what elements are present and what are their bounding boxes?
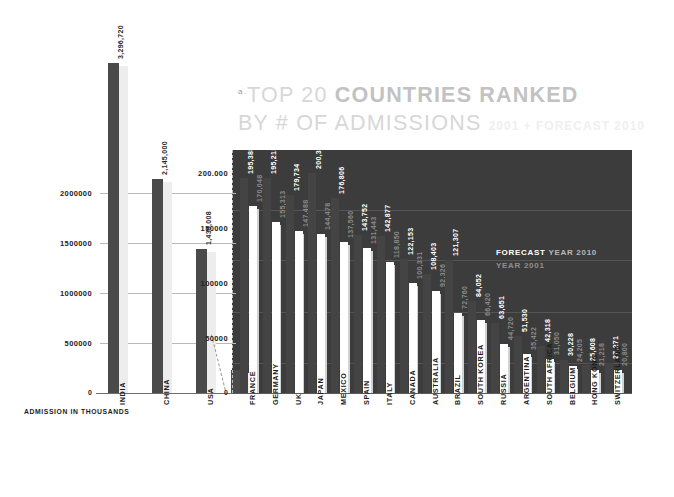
bar-left-CHINA[interactable]: [152, 179, 163, 394]
value-2010-UK: 179,734: [293, 164, 300, 191]
bar-left-INDIA[interactable]: [108, 63, 119, 393]
bar-left-USA[interactable]: [196, 249, 207, 393]
value-2010-BRAZIL: 121,307: [452, 228, 459, 255]
country-label-SWITZERLAND: SWITZERLAND: [613, 345, 622, 405]
value-2010-FRANCE: 195,388: [247, 147, 254, 174]
country-label-ITALY: ITALY: [385, 382, 394, 405]
value-2010-SOUTH AFRICA: 42,318: [544, 319, 551, 342]
country-label-BELGIUM: BELGIUM: [568, 367, 577, 405]
bar-2010-AUSTRALIA[interactable]: [423, 274, 431, 393]
country-label-GERMANY: GERMANY: [271, 363, 280, 405]
country-label-SOUTH-KOREA: SOUTH KOREA: [476, 344, 485, 405]
value-2001-BELGIUM: 24,205: [576, 339, 583, 362]
bar-2001-FRANCE[interactable]: [249, 206, 257, 393]
legend-item-forecast: FORECAST YEAR 2010: [496, 246, 626, 259]
legend-2001-label: YEAR 2001: [496, 261, 545, 270]
zero-label-right: 0: [224, 389, 228, 396]
ytick-left-1000000: 1000000: [20, 289, 92, 298]
title-subtitle: 2001 + FORECAST 2010: [489, 119, 645, 133]
country-label-BRAZIL: BRAZIL: [453, 374, 462, 405]
country-label-SPAIN: SPAIN: [362, 380, 371, 405]
title-line-2: BY # OF ADMISSIONS 2001 + FORECAST 2010: [238, 109, 658, 140]
country-label-AUSTRALIA: AUSTRALIA: [431, 357, 440, 405]
value-2001-SOUTH KOREA: 66,420: [484, 293, 491, 316]
value-2001-ITALY: 118,850: [393, 231, 400, 258]
title-plain-2: BY # OF ADMISSIONS: [238, 111, 481, 135]
bar-2010-GERMANY[interactable]: [263, 178, 271, 393]
ytick-right-150000: 150000: [176, 224, 228, 233]
country-label-CHINA: CHINA: [162, 379, 171, 405]
legend-item-2001: YEAR 2001: [496, 259, 626, 272]
value-2001-MEXICO: 137,560: [347, 210, 354, 237]
legend: FORECAST YEAR 2010 YEAR 2001: [496, 246, 626, 272]
legend-forecast-word: FORECAST: [496, 248, 546, 257]
bar-2010-CANADA[interactable]: [400, 259, 408, 393]
country-label-JAPAN: JAPAN: [316, 378, 325, 405]
legend-forecast-year: YEAR 2010: [546, 248, 597, 257]
bar-2010-SOUTH AFRICA[interactable]: [537, 346, 545, 393]
bar-value-INDIA: 3,296,720: [117, 25, 124, 59]
bar-value-CHINA: 2,145,000: [161, 141, 168, 175]
bar-2001-ITALY[interactable]: [386, 262, 394, 393]
value-2010-CANADA: 122,153: [407, 227, 414, 254]
value-2010-BELGIUM: 30,228: [567, 333, 574, 356]
bar-2010-RUSSIA[interactable]: [491, 323, 499, 393]
bar-2010-SPAIN[interactable]: [354, 235, 362, 393]
ytick-left-2000000: 2000000: [20, 189, 92, 198]
value-2001-SWITZERLAND: 20,800: [621, 343, 628, 366]
title-plain-1: TOP 20: [247, 83, 335, 107]
value-2010-SPAIN: 143,752: [361, 203, 368, 230]
bar-2001-MEXICO[interactable]: [340, 242, 348, 393]
chart-title-block: a.TOP 20 COUNTRIES RANKED BY # OF ADMISS…: [238, 78, 658, 140]
value-2010-GERMANY: 195,213: [270, 147, 277, 174]
title-line-1: a.TOP 20 COUNTRIES RANKED: [238, 78, 658, 109]
value-2010-RUSSIA: 63,651: [498, 296, 505, 319]
bar-2010-MEXICO[interactable]: [331, 198, 339, 393]
value-2010-ARGENTINA: 51,530: [521, 309, 528, 332]
title-marker: a.: [238, 87, 247, 96]
bar-2010-BELGIUM[interactable]: [560, 360, 568, 393]
country-label-MEXICO: MEXICO: [339, 372, 348, 405]
ytick-right-100000: 100000: [176, 279, 228, 288]
ytick-right-50000: 50000: [176, 334, 228, 343]
value-2010-SOUTH KOREA: 84,052: [475, 273, 482, 296]
value-2010-ITALY: 142,877: [384, 204, 391, 231]
chart-canvas: a.TOP 20 COUNTRIES RANKED BY # OF ADMISS…: [0, 0, 674, 497]
bar-2010-FRANCE[interactable]: [240, 178, 248, 393]
ytick-left-1500000: 1500000: [20, 239, 92, 248]
country-label-CANADA: CANADA: [408, 370, 417, 405]
country-label-UK: UK: [294, 393, 303, 405]
value-2010-AUSTRALIA: 108,403: [430, 242, 437, 269]
bar-2010-UK[interactable]: [286, 195, 294, 393]
bar-2010-ARGENTINA[interactable]: [514, 336, 522, 393]
value-2010-MEXICO: 176,806: [338, 167, 345, 194]
country-label-USA: USA: [206, 388, 215, 405]
ytick-right-200000: 200.000: [176, 169, 228, 178]
bar-2001-SPAIN[interactable]: [363, 248, 371, 393]
bar-2010-ITALY[interactable]: [377, 236, 385, 393]
bar-2010-JAPAN[interactable]: [308, 173, 316, 393]
bar-2001-JAPAN[interactable]: [317, 234, 325, 393]
country-label-SOUTH-AFRICA: SOUTH AFRICA: [545, 343, 554, 405]
country-label-RUSSIA: RUSSIA: [499, 374, 508, 405]
title-strong-1: COUNTRIES RANKED: [335, 83, 579, 107]
country-label-HONG-KONG: HONG KONG: [590, 354, 599, 405]
admission-caption: ADMISSION IN THOUSANDS: [24, 408, 129, 415]
bar-2010-BRAZIL[interactable]: [445, 260, 453, 393]
country-label-FRANCE: FRANCE: [248, 371, 257, 405]
ytick-left-500000: 500000: [20, 339, 92, 348]
zero-label-left: 0: [88, 389, 92, 396]
country-label-INDIA: INDIA: [118, 382, 127, 405]
panel-edge-line: [232, 150, 233, 393]
value-2010-JAPAN: 200,325: [315, 141, 322, 168]
bar-2010-SWITZERLAND[interactable]: [605, 363, 613, 393]
country-label-ARGENTINA: ARGENTINA: [522, 356, 531, 405]
bar-2001-UK[interactable]: [295, 231, 303, 393]
